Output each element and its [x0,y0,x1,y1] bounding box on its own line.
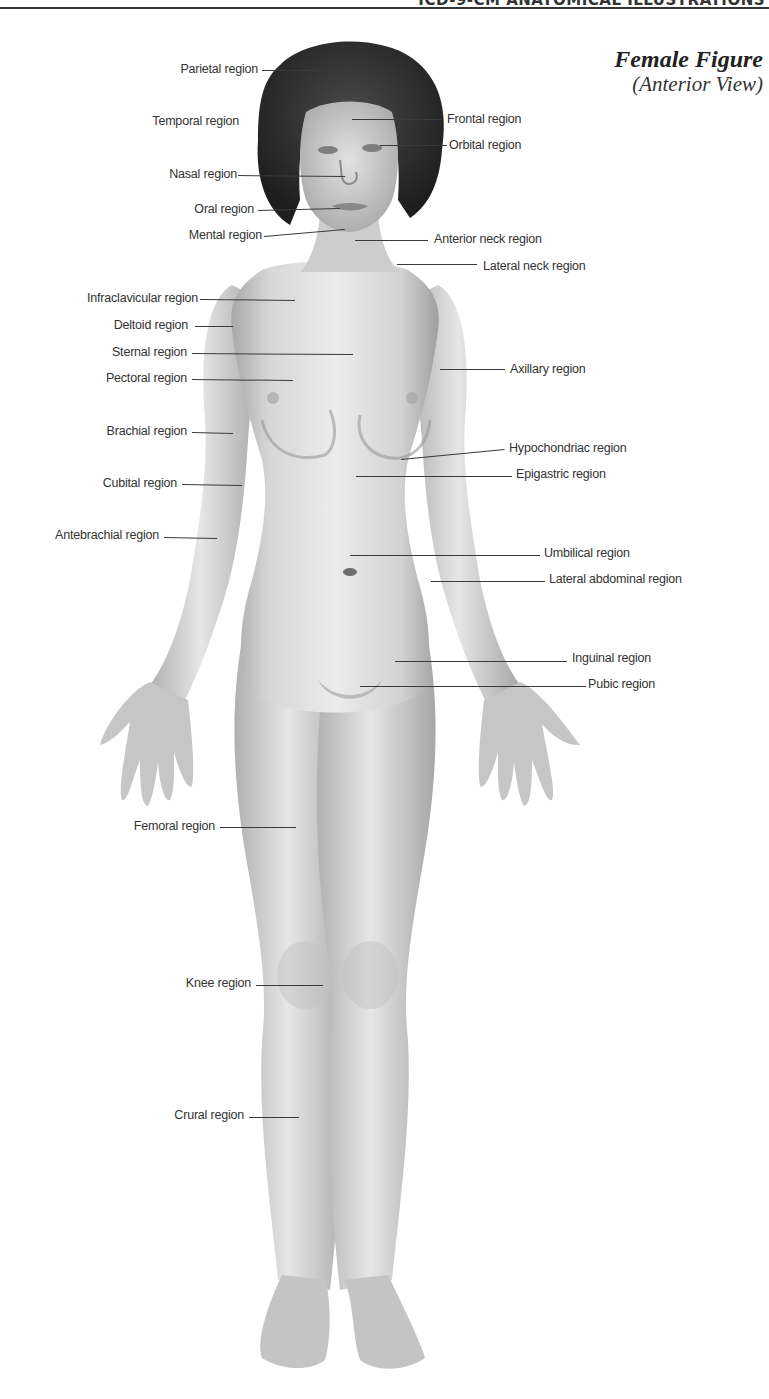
label-umbilical: Umbilical region [544,546,630,560]
leader-line [352,119,442,120]
leader-line [256,985,323,986]
label-axillary: Axillary region [510,362,586,376]
leader-line [350,555,540,556]
leader-line [195,326,233,327]
female-figure-illustration [0,0,769,1399]
label-frontal: Frontal region [447,112,521,126]
label-antebrachial: Antebrachial region [55,528,159,542]
label-nasal: Nasal region [169,167,237,181]
label-anterior-neck: Anterior neck region [434,232,542,246]
label-inguinal: Inguinal region [572,651,651,665]
leader-line [360,686,586,687]
label-temporal: Temporal region [152,114,239,128]
label-pectoral: Pectoral region [106,371,187,385]
label-lateral-abdominal: Lateral abdominal region [549,572,682,586]
leader-line [356,476,512,477]
label-knee: Knee region [186,976,251,990]
label-crural: Crural region [174,1108,244,1122]
leader-line [440,369,505,370]
label-pubic: Pubic region [588,677,655,691]
leader-line [249,1117,299,1118]
leader-line [262,70,320,71]
leader-line [355,240,428,241]
leader-line [395,661,567,662]
label-infraclavicular: Infraclavicular region [87,291,198,305]
leader-line [220,827,296,828]
label-lateral-neck: Lateral neck region [483,259,586,273]
label-femoral: Femoral region [134,819,215,833]
label-parietal: Parietal region [180,62,258,76]
leader-line [380,145,447,146]
label-brachial: Brachial region [107,424,187,438]
label-oral: Oral region [194,202,254,216]
label-deltoid: Deltoid region [114,318,188,332]
label-orbital: Orbital region [449,138,521,152]
leader-line [397,264,477,265]
leader-line [431,581,545,582]
label-mental: Mental region [189,228,262,242]
label-cubital: Cubital region [103,476,177,490]
label-epigastric: Epigastric region [516,467,606,481]
label-hypochondriac: Hypochondriac region [509,441,627,455]
label-sternal: Sternal region [112,345,187,359]
